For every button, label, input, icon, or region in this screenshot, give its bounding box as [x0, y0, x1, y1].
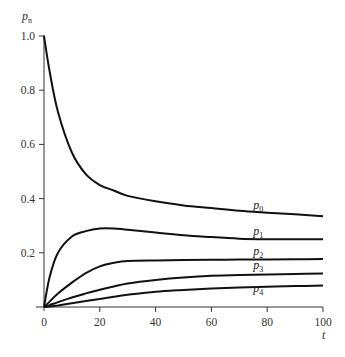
x-tick-label: 60	[206, 316, 218, 328]
y-tick-label: 0.4	[21, 193, 36, 205]
curves	[44, 36, 323, 307]
y-tick-label: 1.0	[21, 30, 36, 42]
chart: 0204060801000.20.40.60.81.0 p0p1p2p3p4 p…	[0, 0, 345, 357]
curve-p2	[44, 259, 323, 307]
x-tick-label: 40	[150, 316, 162, 328]
series-labels: p0p1p2p3p4	[252, 198, 263, 297]
y-axis-title: pn	[21, 9, 32, 25]
x-axis-title: t	[322, 328, 326, 342]
axes: 0204060801000.20.40.60.81.0	[21, 30, 332, 328]
x-tick-label: 100	[314, 316, 332, 328]
x-tick-label: 0	[41, 316, 47, 328]
series-label-p4: p4	[252, 281, 263, 297]
curve-p1	[44, 228, 323, 307]
x-tick-label: 80	[261, 316, 273, 328]
series-label-p0: p0	[252, 198, 263, 214]
y-tick-label: 0.8	[21, 84, 36, 96]
curve-p4	[44, 286, 323, 307]
y-tick-label: 0.6	[21, 138, 36, 150]
x-tick-label: 20	[94, 316, 106, 328]
curve-p0	[44, 36, 323, 216]
series-label-p1: p1	[252, 224, 263, 240]
y-tick-label: 0.2	[21, 247, 36, 259]
